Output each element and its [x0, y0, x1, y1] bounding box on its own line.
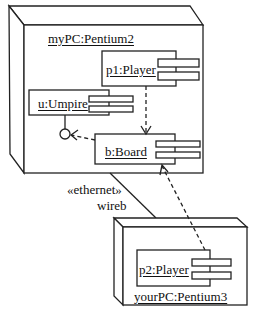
- connection-stereotype-label: «ethernet»: [67, 183, 122, 196]
- component-u-umpire-label: u:Umpire: [38, 97, 88, 110]
- component-b-board-label: b:Board: [105, 145, 147, 158]
- component-p1-player-label: p1:Player: [106, 63, 156, 76]
- node-mypc-label: myPC:Pentium2: [48, 32, 134, 45]
- interface-lollipop-icon: [60, 129, 70, 139]
- node-yourpc-label: yourPC:Pentium3: [134, 290, 227, 303]
- connection-name-label: wireb: [97, 199, 127, 212]
- deployment-diagram: myPC:Pentium2 p1:Player u:Umpire b:Board…: [0, 0, 255, 311]
- component-p2-player-label: p2:Player: [139, 263, 189, 276]
